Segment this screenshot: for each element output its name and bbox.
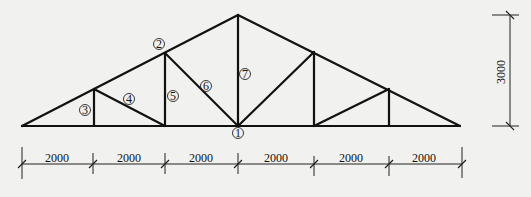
span-dim-3: 2000 [189,151,213,165]
svg-text:7: 7 [242,67,248,81]
svg-text:3: 3 [82,103,88,117]
span-dim-1: 2000 [45,151,69,165]
member-label-2: 2 [154,37,165,51]
svg-text:1: 1 [235,126,241,140]
svg-text:5: 5 [170,89,176,103]
member-label-4: 4 [124,92,135,106]
svg-text:6: 6 [203,79,209,93]
member-label-5: 5 [168,89,179,103]
member-label-1: 1 [233,126,244,140]
member-label-3: 3 [80,103,91,117]
span-dim-2: 2000 [117,151,141,165]
span-dim-4: 2000 [264,151,288,165]
member-label-6: 6 [201,79,212,93]
span-dim-5: 2000 [339,151,363,165]
truss-diagram: 1 2 3 4 5 6 7 2000 [0,0,531,197]
web-right-diagonal-inner [238,52,314,126]
svg-text:4: 4 [126,92,132,106]
height-dimension: 3000 [492,11,519,130]
svg-text:2: 2 [156,37,162,51]
top-chord-left [22,15,238,126]
height-dim-label: 3000 [494,60,508,84]
span-dimension: 2000 2000 2000 2000 2000 2000 [18,147,466,179]
span-dim-6: 2000 [412,151,436,165]
member-label-7: 7 [240,67,251,81]
web-right-diagonal-outer [314,89,389,126]
